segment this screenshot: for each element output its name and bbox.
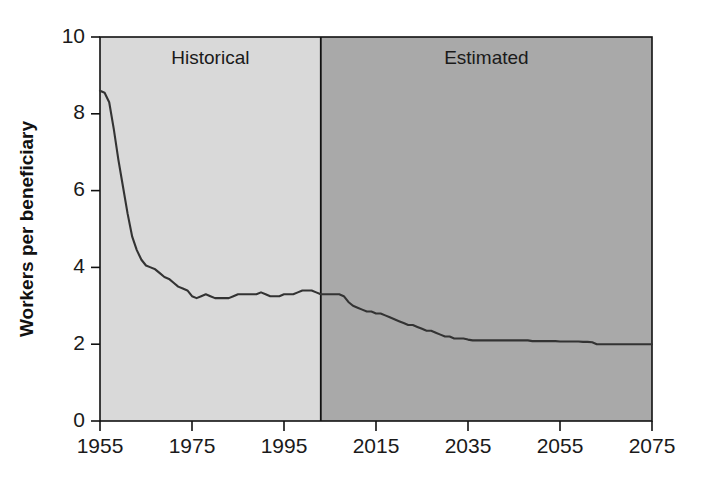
x-tick-label: 1995 [261, 434, 308, 457]
y-tick-label: 0 [73, 408, 85, 431]
chart-figure: 0246810 1955197519952015203520552075 Wor… [0, 0, 709, 480]
y-tick-label: 6 [73, 177, 85, 200]
region-historical-fill [100, 37, 321, 421]
x-tick-label: 2055 [537, 434, 584, 457]
historical-region-label: Historical [171, 47, 249, 68]
plot-regions [100, 37, 652, 421]
x-tick-label: 1955 [77, 434, 124, 457]
y-tick-label: 8 [73, 100, 85, 123]
x-tick-label: 2035 [445, 434, 492, 457]
y-tick-label: 2 [73, 331, 85, 354]
y-axis-title: Workers per beneficiary [16, 121, 37, 338]
workers-per-beneficiary-chart: 0246810 1955197519952015203520552075 Wor… [0, 0, 709, 480]
estimated-region-label: Estimated [444, 47, 528, 68]
y-tick-label: 10 [62, 24, 85, 47]
x-tick-label: 2075 [629, 434, 676, 457]
x-tick-label: 1975 [169, 434, 216, 457]
region-estimated-fill [321, 37, 652, 421]
y-tick-label: 4 [73, 254, 85, 277]
x-tick-label: 2015 [353, 434, 400, 457]
